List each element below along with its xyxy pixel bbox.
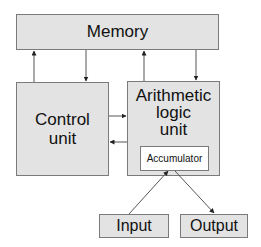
arrow-input-to-accumulator [129,171,168,214]
connector-arrows [0,0,261,247]
arrow-accumulator-to-output [175,171,214,213]
